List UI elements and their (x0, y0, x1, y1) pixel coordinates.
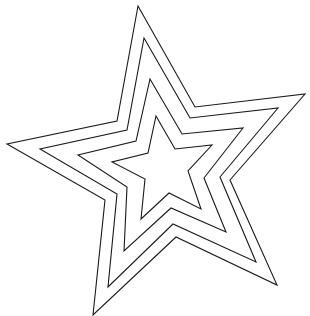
star-outline-outer (7, 6, 305, 315)
star-outline-inner (112, 116, 212, 219)
nested-stars-svg (0, 0, 310, 316)
star-outline-second (40, 38, 278, 287)
star-drawing (0, 0, 310, 316)
